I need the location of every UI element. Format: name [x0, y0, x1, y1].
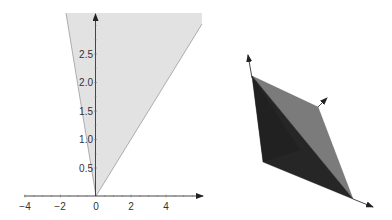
x-tick-label-neg4: −4: [19, 201, 31, 212]
y-tick-label-2-5: 2.5: [79, 49, 93, 60]
y-tick-label-1-0: 1.0: [79, 134, 93, 145]
x-tick-label-2: 2: [128, 201, 134, 212]
cone-axis-arrow-down-right: [353, 199, 373, 207]
x-tick-label-neg2: −2: [54, 201, 66, 212]
cone-axis-arrow-up: [248, 55, 252, 78]
x-tick-label-4: 4: [163, 201, 169, 212]
y-tick-label-0-5: 0.5: [79, 163, 93, 174]
cone-axis-arrow-right: [318, 98, 327, 107]
y-tick-label-1-5: 1.5: [79, 106, 93, 117]
polyhedral-cone-3d: [248, 55, 373, 207]
x-tick-label-0: 0: [93, 201, 99, 212]
region-plot-2d: −4 −2 0 2 4 0.5 1.0 1.5 2.0 2.5: [19, 13, 203, 212]
y-tick-label-2-0: 2.0: [79, 77, 93, 88]
diagram-canvas: −4 −2 0 2 4 0.5 1.0 1.5 2.0 2.5: [0, 0, 392, 220]
